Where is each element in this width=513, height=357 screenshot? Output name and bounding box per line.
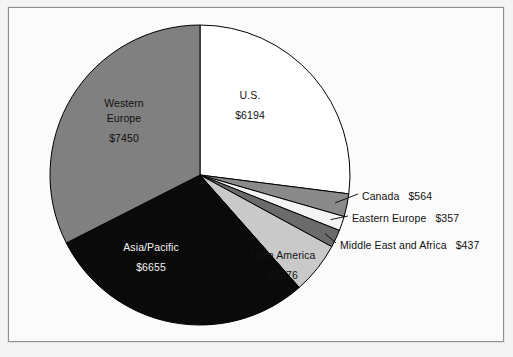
slice-label-western-europe-value: $7450 xyxy=(80,131,168,146)
slice-label-latin-america: Latin America $1276 xyxy=(239,248,327,283)
callout-label-canada-value: $564 xyxy=(408,190,432,202)
chart-page: U.S. $6194 Western Europe $7450 Asia/Pac… xyxy=(0,0,513,357)
callout-label-middle-east-africa-value: $437 xyxy=(456,239,480,251)
slice-label-western-europe-name-line2: Europe xyxy=(80,111,168,126)
slice-label-us-value: $6194 xyxy=(205,108,295,123)
slice-label-asia-pacific-name: Asia/Pacific xyxy=(98,240,204,255)
slice-label-western-europe-name-line1: Western xyxy=(80,96,168,111)
callout-label-eastern-europe-name: Eastern Europe xyxy=(352,212,426,224)
pie-chart xyxy=(0,0,513,357)
slice-label-asia-pacific: Asia/Pacific $6655 xyxy=(98,240,204,275)
slice-label-us-name: U.S. xyxy=(205,88,295,103)
callout-label-canada: Canada$564 xyxy=(362,190,432,202)
callout-label-middle-east-africa: Middle East and Africa$437 xyxy=(340,239,479,251)
slice-label-asia-pacific-value: $6655 xyxy=(98,260,204,275)
callout-label-eastern-europe: Eastern Europe$357 xyxy=(352,212,459,224)
callout-label-eastern-europe-value: $357 xyxy=(435,212,459,224)
slice-label-latin-america-value: $1276 xyxy=(239,268,327,283)
callout-label-middle-east-africa-name: Middle East and Africa xyxy=(340,239,447,251)
callout-label-canada-name: Canada xyxy=(362,190,399,202)
slice-label-latin-america-name: Latin America xyxy=(239,248,327,263)
slice-label-us: U.S. $6194 xyxy=(205,88,295,123)
slice-label-western-europe: Western Europe $7450 xyxy=(80,96,168,147)
